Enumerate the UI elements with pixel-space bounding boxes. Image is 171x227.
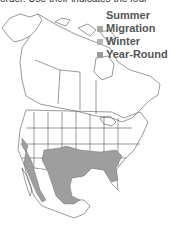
legend-row-migration: Migration	[97, 22, 168, 35]
legend-row-winter: Winter	[97, 35, 168, 48]
legend-label-winter: Winter	[106, 35, 140, 48]
migration-swatch-icon	[97, 26, 103, 32]
us-outline	[18, 110, 148, 190]
year-round-swatch-icon	[97, 52, 103, 58]
alaska-outline	[2, 14, 42, 42]
legend-label-migration: Migration	[106, 22, 156, 35]
legend-row-year-round: Year-Round	[97, 48, 168, 61]
legend-title-summer: Summer	[106, 9, 168, 22]
us-canada-border	[26, 110, 140, 118]
legend-label-year-round: Year-Round	[106, 48, 168, 61]
map-legend: Summer Migration Winter Year-Round	[97, 9, 168, 61]
year-round-range	[22, 138, 122, 204]
winter-swatch-icon	[97, 39, 103, 45]
